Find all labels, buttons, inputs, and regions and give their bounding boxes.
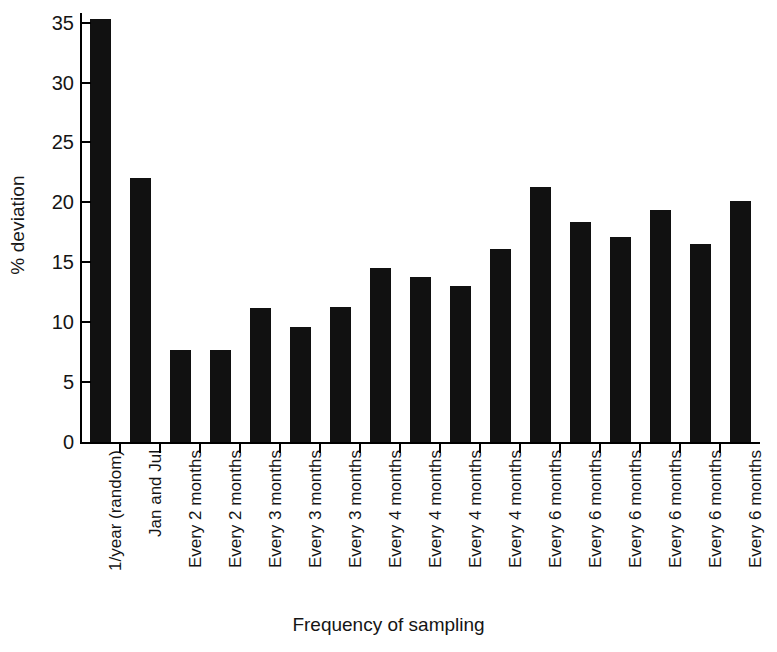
x-axis-tick-label-text: Every 6 months <box>547 450 564 568</box>
bars-layer <box>0 0 777 442</box>
x-axis-tick-label: Every 6 months <box>707 450 724 568</box>
bar <box>450 286 471 442</box>
bar <box>170 350 191 442</box>
x-axis-tick-label: Every 4 months <box>507 450 524 568</box>
bar <box>130 178 151 442</box>
y-axis-tick-mark <box>80 381 91 383</box>
x-axis-tick-label-text: Every 6 months <box>627 450 644 568</box>
x-axis-tick-mark <box>719 443 721 453</box>
y-axis-tick-mark <box>80 201 91 203</box>
x-axis-tick-mark <box>279 443 281 453</box>
y-axis-tick-mark <box>80 321 91 323</box>
y-axis-tick-mark <box>80 82 91 84</box>
x-axis-tick-label-text: Every 6 months <box>707 450 724 568</box>
y-axis-tick-mark <box>80 22 91 24</box>
x-axis-tick-label: Every 6 months <box>627 450 644 568</box>
y-axis-tick-mark <box>80 141 91 143</box>
x-axis-tick-label: Every 4 months <box>427 450 444 568</box>
x-axis-tick-label: Every 6 months <box>747 450 764 568</box>
bar <box>290 327 311 442</box>
x-axis-tick-label: Every 6 months <box>667 450 684 568</box>
x-axis-tick-label-text: Every 4 months <box>467 450 484 568</box>
x-axis-tick-label-text: Every 6 months <box>587 450 604 568</box>
y-axis-tick-mark <box>80 261 91 263</box>
bar <box>210 350 231 442</box>
x-axis-tick-label-text: Every 3 months <box>347 450 364 568</box>
bar <box>410 277 431 442</box>
bar <box>570 222 591 442</box>
x-axis-tick-label-text: Jan and Jul <box>147 450 164 537</box>
x-axis-tick-label: 1/year (random) <box>107 450 124 571</box>
x-axis-tick-label-text: Every 4 months <box>507 450 524 568</box>
bar <box>690 244 711 442</box>
x-axis-tick-mark <box>599 443 601 453</box>
x-axis-title: Frequency of sampling <box>0 614 777 636</box>
bar <box>330 307 351 442</box>
x-axis-tick-label: Every 4 months <box>387 450 404 568</box>
bar <box>610 237 631 442</box>
bar <box>650 210 671 442</box>
x-axis-tick-label: Every 6 months <box>587 450 604 568</box>
x-axis-tick-label-text: Every 6 months <box>667 450 684 568</box>
x-axis-tick-mark <box>239 443 241 453</box>
x-axis-tick-label: Every 2 months <box>187 450 204 568</box>
x-axis-tick-label-text: Every 4 months <box>387 450 404 568</box>
x-axis-tick-label: Every 3 months <box>347 450 364 568</box>
x-axis-tick-label: Every 3 months <box>267 450 284 568</box>
x-axis-tick-label: Every 3 months <box>307 450 324 568</box>
x-axis-tick-mark <box>159 443 161 453</box>
bar <box>90 19 111 442</box>
bar <box>250 308 271 442</box>
x-axis-tick-mark <box>359 443 361 453</box>
x-axis-tick-mark <box>319 443 321 453</box>
x-axis-tick-mark <box>479 443 481 453</box>
x-axis-tick-label-text: Every 3 months <box>307 450 324 568</box>
x-axis-tick-labels: 1/year (random)Jan and JulEvery 2 months… <box>0 444 777 609</box>
x-axis-tick-mark <box>559 443 561 453</box>
bar <box>730 201 751 442</box>
x-axis-tick-label: Every 6 months <box>547 450 564 568</box>
x-axis-tick-label: Every 2 months <box>227 450 244 568</box>
x-axis-tick-label-text: Every 6 months <box>747 450 764 568</box>
x-axis-tick-label-text: Every 2 months <box>187 450 204 568</box>
x-axis-tick-mark <box>639 443 641 453</box>
chart-page: % deviation 05101520253035 1/year (rando… <box>0 0 777 652</box>
x-axis-tick-mark <box>519 443 521 453</box>
x-axis-tick-label-text: Every 3 months <box>267 450 284 568</box>
x-axis-tick-mark <box>119 443 121 453</box>
bar <box>370 268 391 442</box>
x-axis-tick-label-text: Every 2 months <box>227 450 244 568</box>
x-axis-tick-mark <box>199 443 201 453</box>
x-axis-tick-mark <box>439 443 441 453</box>
x-axis-tick-label: Every 4 months <box>467 450 484 568</box>
bar <box>490 249 511 442</box>
x-axis-tick-label-text: Every 4 months <box>427 450 444 568</box>
x-axis-tick-mark <box>679 443 681 453</box>
bar <box>530 187 551 442</box>
x-axis-tick-mark <box>399 443 401 453</box>
x-axis-tick-label: Jan and Jul <box>147 450 164 537</box>
x-axis-tick-label-text: 1/year (random) <box>107 450 124 571</box>
